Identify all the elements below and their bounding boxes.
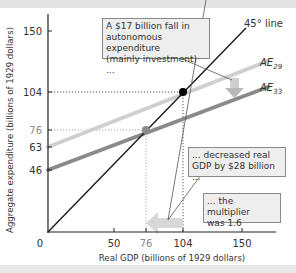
y-tick-46: 46 <box>29 165 42 176</box>
x-axis-title: Real GDP (billions of 1929 dollars) <box>99 253 245 263</box>
x-tick-104: 104 <box>173 238 192 249</box>
annotation-text: was 1.6 <box>207 218 277 229</box>
annotation-text: (mainly investment) ... <box>106 54 206 76</box>
x-tick-76: 76 <box>140 238 153 249</box>
annotation-autonomous-fall: A $17 billion fall in autonomous expendi… <box>102 18 210 59</box>
equilibrium-point-1933 <box>142 126 150 134</box>
ae33-label: AE33 <box>259 82 282 96</box>
gdp-decrease-left-arrow-icon <box>146 212 183 234</box>
x-tick-150: 150 <box>232 238 251 249</box>
annotation-text: ... decreased real <box>192 150 282 161</box>
y-axis-title: Aggregate expenditure (billions of 1929 … <box>5 27 15 233</box>
annotation-gdp-decrease: ... decreased real GDP by $28 billion ..… <box>188 147 286 177</box>
y-tick-104: 104 <box>23 87 42 98</box>
annotation-text: autonomous expenditure <box>106 32 206 54</box>
annotation-text: GDP by $28 billion ... <box>192 161 282 183</box>
origin-label: 0 <box>37 238 43 249</box>
equilibrium-point-1929 <box>179 88 187 96</box>
ae29-label: AE29 <box>259 57 283 71</box>
annotation-text: ... the multiplier <box>207 196 277 218</box>
y-tick-63: 63 <box>29 142 42 153</box>
line-45-label: 45° line <box>244 18 283 29</box>
annotation-multiplier: ... the multiplier was 1.6 <box>203 193 281 223</box>
annotation-text: A $17 billion fall in <box>106 21 206 32</box>
y-tick-150: 150 <box>23 26 42 37</box>
x-tick-50: 50 <box>108 238 121 249</box>
y-tick-76: 76 <box>29 125 42 136</box>
